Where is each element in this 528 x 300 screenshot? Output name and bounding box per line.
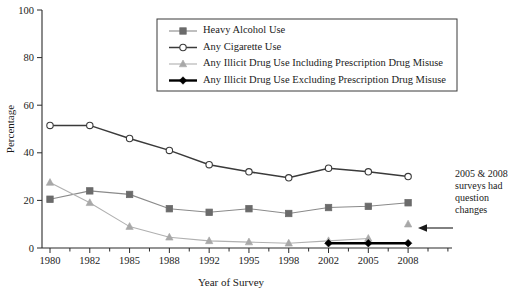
legend-label: Any Illicit Drug Use Including Prescript… [203, 57, 443, 68]
series-0 [47, 188, 412, 217]
x-tick-label: 1998 [278, 255, 299, 266]
legend-label: Any Cigarette Use [203, 41, 281, 52]
y-tick-label: 100 [18, 5, 34, 16]
x-tick-label: 2008 [398, 255, 419, 266]
legend-label: Any Illicit Drug Use Excluding Prescript… [203, 74, 446, 85]
data-point-marker [206, 162, 212, 168]
annotation-line: 2005 & 2008 [455, 168, 508, 179]
x-tick-label: 1982 [79, 255, 100, 266]
data-point-marker [246, 206, 252, 212]
data-point-marker [87, 122, 93, 128]
x-tick-label: 1980 [40, 255, 61, 266]
data-point-marker [405, 173, 411, 179]
x-tick-label: 1985 [119, 255, 140, 266]
data-point-marker [245, 238, 252, 245]
data-point-marker [404, 220, 411, 227]
data-point-marker [126, 191, 132, 197]
data-point-marker [86, 199, 93, 206]
chart-legend: Heavy Alcohol UseAny Cigarette UseAny Il… [157, 19, 457, 91]
y-tick-label: 40 [24, 147, 35, 158]
annotation-line: question [455, 192, 489, 203]
y-tick-label: 0 [29, 243, 34, 254]
series-group [46, 122, 412, 247]
data-point-marker [46, 179, 53, 186]
x-tick-label: 1992 [199, 255, 220, 266]
data-point-marker [180, 28, 186, 34]
y-axis-title: Percentage [4, 105, 16, 153]
data-point-marker [206, 209, 212, 215]
data-point-marker [166, 147, 172, 153]
data-point-marker [365, 169, 371, 175]
annotation-line: surveys had [455, 180, 503, 191]
data-point-marker [246, 169, 252, 175]
x-tick-label: 1988 [159, 255, 180, 266]
data-point-marker [87, 188, 93, 194]
data-point-marker [126, 135, 132, 141]
y-tick-label: 20 [24, 195, 35, 206]
x-tick-label: 1995 [238, 255, 259, 266]
data-point-marker [166, 206, 172, 212]
data-point-marker [47, 122, 53, 128]
series-line [50, 125, 408, 177]
x-axis-title: Year of Survey [198, 276, 265, 288]
chart-container: 020406080100Percentage198019821985198819… [0, 0, 528, 300]
data-point-marker [286, 210, 292, 216]
x-tick-label: 2005 [358, 255, 379, 266]
y-tick-label: 60 [24, 100, 35, 111]
series-1 [47, 122, 412, 181]
data-point-marker [47, 196, 53, 202]
y-tick-label: 80 [24, 52, 35, 63]
data-point-marker [286, 175, 292, 181]
data-point-marker [405, 200, 411, 206]
chart-annotation: 2005 & 2008surveys hadquestionchanges [418, 168, 508, 232]
x-tick-label: 2002 [318, 255, 339, 266]
data-point-marker [126, 223, 133, 230]
series-2 [46, 179, 411, 246]
legend-item-3[interactable]: Any Illicit Drug Use Excluding Prescript… [169, 74, 446, 85]
data-point-marker [180, 44, 186, 50]
data-point-marker [404, 239, 412, 247]
data-point-marker [365, 203, 371, 209]
data-point-marker [325, 204, 331, 210]
series-line [50, 191, 408, 214]
legend-label: Heavy Alcohol Use [203, 24, 286, 35]
data-point-marker [325, 165, 331, 171]
line-chart: 020406080100Percentage198019821985198819… [0, 0, 528, 300]
annotation-line: changes [455, 204, 487, 215]
annotation-arrow-head [418, 224, 427, 232]
legend-item-2[interactable]: Any Illicit Drug Use Including Prescript… [169, 57, 443, 68]
